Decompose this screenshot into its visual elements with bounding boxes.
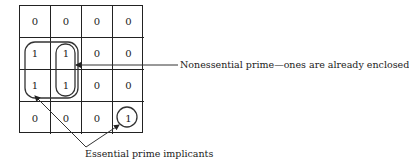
nonessential-prime-label: Nonessential prime—ones are already encl… xyxy=(180,59,409,70)
essential-arrow-left xyxy=(35,96,86,147)
essential-prime-label: Essential prime implicants xyxy=(85,148,213,159)
essential-arrow-right xyxy=(86,125,119,147)
essential-quad-loop xyxy=(25,42,78,98)
nonessential-pair-loop xyxy=(56,44,75,96)
essential-single-circle xyxy=(117,107,137,127)
